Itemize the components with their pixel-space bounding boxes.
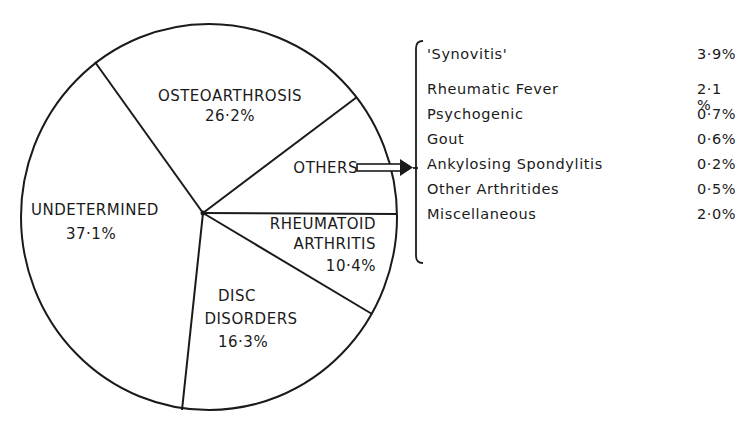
slice-value: 16·3% — [196, 332, 306, 352]
slice-name: DISC — [196, 286, 306, 306]
list-item: Miscellaneous 2·0% — [425, 206, 735, 226]
spoke-undetermined-osteo — [95, 62, 203, 213]
item-name: Psychogenic — [427, 106, 524, 122]
list-item: Rheumatic Fever 2·1 % — [425, 81, 735, 101]
slice-label-undetermined: UNDETERMINED 37·1% — [26, 200, 176, 244]
breakdown-bracket — [413, 40, 425, 265]
slice-label-others: OTHERS — [278, 158, 358, 178]
item-name: Ankylosing Spondylitis — [427, 156, 603, 172]
slice-label-disc-disorders: DISC DISORDERS 16·3% — [196, 286, 306, 352]
item-value: 0·6% — [697, 131, 736, 147]
slice-value: 26·2% — [150, 106, 310, 126]
list-item: 'Synovitis' 3·9% — [425, 46, 735, 66]
slice-name-line2: ARTHRITIS — [246, 234, 376, 254]
slice-name: OTHERS — [278, 158, 358, 178]
slice-name: OSTEOARTHROSIS — [150, 86, 310, 106]
pie-hub — [201, 211, 206, 216]
item-value: 0·2% — [697, 156, 736, 172]
slice-value: 10·4% — [246, 256, 376, 276]
list-item: Ankylosing Spondylitis 0·2% — [425, 156, 735, 176]
list-item: Psychogenic 0·7% — [425, 106, 735, 126]
item-name: Miscellaneous — [427, 206, 536, 222]
others-arrow-icon — [357, 159, 413, 176]
item-value: 0·7% — [697, 106, 736, 122]
slice-label-rheumatoid-arthritis: RHEUMATOID ARTHRITIS 10·4% — [246, 214, 376, 276]
slice-name: UNDETERMINED — [26, 200, 176, 220]
list-item: Other Arthritides 0·5% — [425, 181, 735, 201]
slice-label-osteoarthrosis: OSTEOARTHROSIS 26·2% — [150, 86, 310, 126]
item-name: Gout — [427, 131, 464, 147]
item-name: Rheumatic Fever — [427, 81, 559, 97]
item-name: Other Arthritides — [427, 181, 559, 197]
slice-name: RHEUMATOID — [246, 214, 376, 234]
item-name: 'Synovitis' — [427, 46, 507, 62]
slice-value: 37·1% — [26, 224, 176, 244]
item-value: 3·9% — [697, 46, 736, 62]
item-value: 2·0% — [697, 206, 736, 222]
slice-name-line2: DISORDERS — [196, 309, 306, 329]
list-item: Gout 0·6% — [425, 131, 735, 151]
item-value: 0·5% — [697, 181, 736, 197]
